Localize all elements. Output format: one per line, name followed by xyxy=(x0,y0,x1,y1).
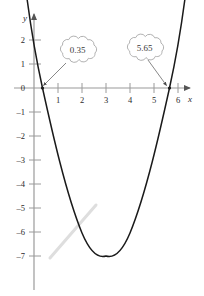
y-tick-label-1: 1 xyxy=(21,59,25,69)
y-tick-label-neg3: –3 xyxy=(16,155,26,165)
y-axis-tick-labels: 2 1 0 –1 –2 –3 –4 –5 –6 –7 xyxy=(16,35,26,261)
callout-right-label: 5.65 xyxy=(137,43,153,53)
callout-left-leader xyxy=(44,63,67,86)
y-tick-label-neg2: –2 xyxy=(16,131,26,141)
x-axis-label: x xyxy=(187,94,192,104)
y-tick-label-0: 0 xyxy=(21,83,25,93)
callout-left-label: 0.35 xyxy=(70,45,86,55)
scan-artifact-streak xyxy=(50,205,96,258)
axis-lines xyxy=(14,14,190,290)
y-tick-label-neg7: –7 xyxy=(16,251,26,261)
y-tick-label-neg5: –5 xyxy=(16,203,26,213)
x-tick-label-2: 2 xyxy=(80,95,84,105)
callout-left-root: 0.35 xyxy=(44,36,97,85)
root-marker-right xyxy=(168,86,171,89)
x-tick-label-4: 4 xyxy=(128,95,133,105)
y-tick-label-neg1: –1 xyxy=(16,107,26,117)
callout-right-leader xyxy=(148,60,167,86)
y-tick-label-neg6: –6 xyxy=(16,227,26,237)
root-marker-left xyxy=(41,86,44,89)
parabola-plot: 1 2 3 4 5 6 2 1 0 –1 –2 –3 –4 –5 xyxy=(0,0,204,296)
x-tick-label-6: 6 xyxy=(176,95,180,105)
graph-figure: 1 2 3 4 5 6 2 1 0 –1 –2 –3 –4 –5 xyxy=(0,0,204,296)
y-tick-label-neg4: –4 xyxy=(16,179,26,189)
parabola-curve xyxy=(27,0,186,257)
y-axis-label: y xyxy=(22,13,27,23)
x-tick-label-1: 1 xyxy=(56,95,60,105)
x-tick-label-3: 3 xyxy=(104,95,108,105)
x-axis-tick-labels: 1 2 3 4 5 6 xyxy=(56,95,180,105)
callout-right-root: 5.65 xyxy=(127,34,166,85)
y-tick-label-2: 2 xyxy=(21,35,25,45)
x-tick-label-5: 5 xyxy=(152,95,156,105)
